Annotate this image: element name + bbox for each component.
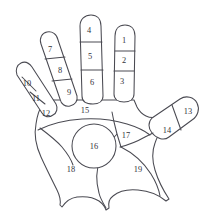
zone-label-5: 5 [88,52,92,61]
zone-label-9: 9 [67,88,71,97]
zone-label-17: 17 [122,131,130,140]
zone-label-14: 14 [163,126,172,135]
zone-label-15: 15 [81,106,89,115]
hand-zone-diagram: 1 2 3 4 5 6 7 8 9 10 11 12 13 14 15 16 1… [0,0,213,223]
zone-label-18: 18 [67,165,75,174]
zone-label-2: 2 [122,56,126,65]
zone-label-13: 13 [184,107,192,116]
zone-label-12: 12 [42,109,50,118]
thumb-outline [149,97,198,139]
zone-label-7: 7 [48,45,52,54]
hand-diagram-svg: 1 2 3 4 5 6 7 8 9 10 11 12 13 14 15 16 1… [0,0,213,223]
thumb-group [149,97,198,139]
zone-label-6: 6 [90,78,94,87]
zone-label-19: 19 [134,165,142,174]
zone-label-8: 8 [58,66,62,75]
zone-label-3: 3 [120,77,124,86]
zone-label-1: 1 [122,36,126,45]
zone-label-10: 10 [23,79,31,88]
zone-label-16: 16 [90,142,98,151]
zone-label-11: 11 [32,94,40,103]
